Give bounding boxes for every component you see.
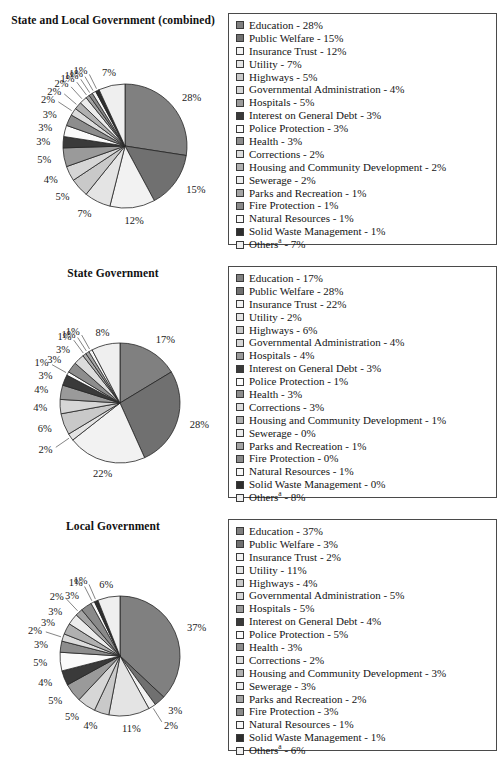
legend-item-label: Highways - 6%: [249, 324, 317, 337]
legend-item[interactable]: Hospitals - 5%: [236, 602, 490, 615]
legend-item[interactable]: Interest on General Debt - 3%: [236, 362, 490, 375]
legend-item[interactable]: Interest on General Debt - 4%: [236, 615, 490, 628]
legend-swatch-icon: [236, 455, 244, 463]
legend-item[interactable]: Police Protection - 3%: [236, 122, 490, 135]
legend-item[interactable]: Police Protection - 1%: [236, 375, 490, 388]
legend-item-label: Police Protection - 5%: [249, 628, 348, 641]
legend-item[interactable]: Highways - 5%: [236, 71, 490, 84]
slice-label: 5%: [65, 711, 79, 722]
legend-swatch-icon: [236, 721, 244, 729]
slice-leader-line: [74, 340, 83, 353]
legend-item[interactable]: Natural Resources - 1%: [236, 718, 490, 731]
legend-swatch-icon: [236, 553, 244, 561]
legend-item[interactable]: Housing and Community Development - 3%: [236, 667, 490, 680]
legend-item-label: Fire Protection - 3%: [249, 705, 339, 718]
legend-item[interactable]: Insurance Trust - 2%: [236, 551, 490, 564]
legend-swatch-icon: [236, 527, 244, 535]
legend-item-label: Natural Resources - 1%: [249, 212, 354, 225]
legend-item[interactable]: Natural Resources - 1%: [236, 465, 490, 478]
slice-label: 2%: [39, 444, 53, 455]
slice-label: 3%: [47, 354, 61, 365]
legend-item[interactable]: Fire Protection - 1%: [236, 199, 490, 212]
slice-leader-line: [56, 438, 69, 447]
legend-item-label: Interest on General Debt - 3%: [249, 362, 381, 375]
legend-item[interactable]: Othersa - 7%: [236, 238, 490, 251]
slice-leader-line: [153, 708, 162, 722]
legend-item[interactable]: Highways - 4%: [236, 577, 490, 590]
legend-item[interactable]: Police Protection - 5%: [236, 628, 490, 641]
slice-label: 3%: [41, 617, 55, 628]
legend-item[interactable]: Othersa - 8%: [236, 491, 490, 504]
legend-item[interactable]: Utility - 2%: [236, 311, 490, 324]
slice-label: 5%: [37, 154, 51, 165]
slice-leader-line: [77, 82, 87, 95]
legend-item[interactable]: Solid Waste Management - 1%: [236, 731, 490, 744]
legend-item[interactable]: Utility - 7%: [236, 58, 490, 71]
legend-item[interactable]: Parks and Recreation - 1%: [236, 187, 490, 200]
legend-swatch-icon: [236, 189, 244, 197]
legend-item[interactable]: Governmental Administration - 4%: [236, 336, 490, 349]
legend-item-label: Interest on General Debt - 3%: [249, 109, 381, 122]
legend-item[interactable]: Solid Waste Management - 0%: [236, 478, 490, 491]
slice-label: 15%: [186, 184, 206, 195]
legend-item-label: Solid Waste Management - 0%: [249, 478, 385, 491]
legend-item[interactable]: Othersa - 6%: [236, 744, 490, 757]
legend-item[interactable]: Public Welfare - 3%: [236, 538, 490, 551]
legend-item[interactable]: Hospitals - 5%: [236, 96, 490, 109]
legend-swatch-icon: [236, 86, 244, 94]
legend-item[interactable]: Highways - 6%: [236, 324, 490, 337]
legend-item-label: Utility - 7%: [249, 58, 302, 71]
legend-swatch-icon: [236, 176, 244, 184]
legend-item[interactable]: Public Welfare - 28%: [236, 285, 490, 298]
legend-item[interactable]: Health - 3%: [236, 641, 490, 654]
slice-label: 37%: [187, 622, 207, 633]
legend-item-label: Corrections - 2%: [249, 148, 324, 161]
legend-item[interactable]: Insurance Trust - 22%: [236, 298, 490, 311]
pie-chart-state: 17%28%22%2%6%4%4%3%1%3%3%1%1%1%8%: [0, 253, 226, 506]
pie-slice[interactable]: [125, 84, 187, 156]
legend-item-label: Natural Resources - 1%: [249, 465, 354, 478]
legend-item[interactable]: Housing and Community Development - 1%: [236, 414, 490, 427]
legend-item[interactable]: Corrections - 2%: [236, 654, 490, 667]
slice-label: 7%: [102, 67, 116, 78]
legend-item[interactable]: Corrections - 2%: [236, 148, 490, 161]
legend-item[interactable]: Sewerage - 2%: [236, 174, 490, 187]
legend-swatch-icon: [236, 150, 244, 158]
legend-item[interactable]: Education - 17%: [236, 272, 490, 285]
legend-item[interactable]: Insurance Trust - 12%: [236, 45, 490, 58]
legend-item-label: Health - 3%: [249, 388, 302, 401]
legend-item[interactable]: Corrections - 3%: [236, 401, 490, 414]
legend-item[interactable]: Public Welfare - 15%: [236, 32, 490, 45]
legend-swatch-icon: [236, 300, 244, 308]
legend-item[interactable]: Education - 37%: [236, 525, 490, 538]
legend-swatch-icon: [236, 21, 244, 29]
legend-item[interactable]: Parks and Recreation - 2%: [236, 693, 490, 706]
legend-item[interactable]: Health - 3%: [236, 135, 490, 148]
slice-leader-line: [46, 632, 61, 637]
slice-label: 2%: [164, 720, 178, 731]
legend-item-label: Sewerage - 0%: [249, 427, 316, 440]
legend-item[interactable]: Utility - 11%: [236, 564, 490, 577]
legend-item-label: Education - 37%: [249, 525, 323, 538]
slice-leader-line: [64, 94, 76, 104]
legend-swatch-icon: [236, 365, 244, 373]
legend-item[interactable]: Governmental Administration - 5%: [236, 589, 490, 602]
legend-item[interactable]: Housing and Community Development - 2%: [236, 161, 490, 174]
legend-item[interactable]: Natural Resources - 1%: [236, 212, 490, 225]
legend-item[interactable]: Interest on General Debt - 3%: [236, 109, 490, 122]
legend-item[interactable]: Parks and Recreation - 1%: [236, 440, 490, 453]
legend-swatch-icon: [236, 605, 244, 613]
legend-item-label: Sewerage - 3%: [249, 680, 316, 693]
legend-item[interactable]: Fire Protection - 0%: [236, 452, 490, 465]
legend-item[interactable]: Sewerage - 0%: [236, 427, 490, 440]
legend-swatch-icon: [236, 682, 244, 690]
legend-item[interactable]: Solid Waste Management - 1%: [236, 225, 490, 238]
legend-local: Education - 37%Public Welfare - 3%Insura…: [228, 519, 497, 751]
legend-item[interactable]: Health - 3%: [236, 388, 490, 401]
legend-item[interactable]: Sewerage - 3%: [236, 680, 490, 693]
legend-item[interactable]: Governmental Administration - 4%: [236, 83, 490, 96]
legend-item[interactable]: Hospitals - 4%: [236, 349, 490, 362]
legend-item[interactable]: Fire Protection - 3%: [236, 705, 490, 718]
legend-item[interactable]: Education - 28%: [236, 19, 490, 32]
slice-leader-line: [71, 87, 82, 99]
